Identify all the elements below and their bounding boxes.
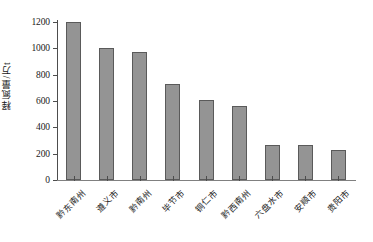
bar (232, 106, 247, 180)
x-axis-tick-label: 黔东南州 (53, 186, 88, 221)
x-axis-tick-label: 黔南州 (125, 186, 153, 214)
x-axis-tick (272, 176, 273, 181)
x-axis-tick (338, 176, 339, 181)
bar-series (57, 22, 355, 180)
bar (66, 22, 81, 180)
x-axis-tick (107, 176, 108, 181)
bar (132, 52, 147, 180)
x-axis-tick-label: 贵阳市 (324, 186, 352, 214)
y-axis-tick (53, 180, 57, 181)
x-axis-tick-label: 毕节市 (158, 186, 186, 214)
y-axis-title: 释氮量/万t (2, 62, 16, 110)
x-axis-tick (206, 176, 207, 181)
bar (99, 48, 114, 180)
y-axis-tick-label: 800 (36, 70, 50, 80)
y-axis-tick-label: 200 (36, 149, 50, 159)
x-axis-tick-label: 铜仁市 (191, 186, 219, 214)
y-axis-tick-label: 0 (45, 175, 50, 185)
x-axis-tick-label: 安顺市 (291, 186, 319, 214)
x-axis-tick (173, 176, 174, 181)
x-axis-tick (239, 176, 240, 181)
bar (265, 145, 280, 180)
bar-chart: 释氮量/万t 020040060080010001200 黔东南州遵义市黔南州毕… (0, 0, 373, 242)
x-axis-tick-label: 黔西南州 (218, 186, 253, 221)
x-axis-tick (140, 176, 141, 181)
x-axis-tick-label: 六盘水市 (251, 186, 286, 221)
y-axis-tick-label: 400 (36, 122, 50, 132)
y-axis-tick-label: 1000 (31, 43, 50, 53)
y-axis-tick-label: 600 (36, 96, 50, 106)
x-axis-tick (74, 176, 75, 181)
bar (298, 145, 313, 180)
x-axis-tick-label: 遵义市 (92, 186, 120, 214)
bar (199, 100, 214, 180)
y-axis-tick-label: 1200 (31, 17, 50, 27)
bar (165, 84, 180, 180)
x-axis-tick (305, 176, 306, 181)
